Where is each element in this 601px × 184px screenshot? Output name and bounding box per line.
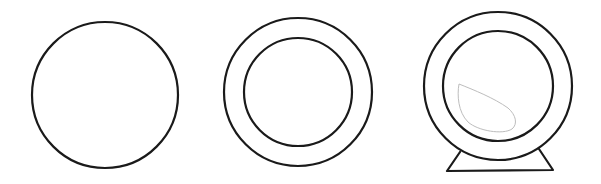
drawing-steps-diagram [0, 0, 601, 184]
outer-circle [32, 22, 178, 168]
inner-circle [244, 38, 352, 146]
outer-circle [224, 18, 372, 166]
step-3-mirror-with-stand [424, 12, 572, 171]
outer-circle [424, 12, 572, 160]
step-2-concentric-circles [224, 18, 372, 166]
step-1-circle [32, 22, 178, 168]
